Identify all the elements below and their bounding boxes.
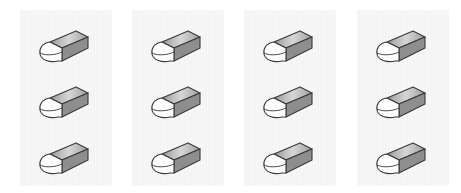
eraser-icon bbox=[148, 140, 208, 180]
eraser-icon bbox=[260, 84, 320, 124]
eraser-item bbox=[244, 20, 336, 76]
eraser-item bbox=[132, 20, 224, 76]
eraser-icon bbox=[148, 84, 208, 124]
panel-column-3 bbox=[244, 10, 336, 186]
eraser-icon bbox=[373, 84, 433, 124]
eraser-icon bbox=[36, 140, 96, 180]
eraser-item bbox=[20, 76, 112, 132]
eraser-icon bbox=[373, 28, 433, 68]
panel-column-2 bbox=[132, 10, 224, 186]
eraser-item bbox=[357, 132, 449, 188]
eraser-item bbox=[357, 76, 449, 132]
eraser-item bbox=[357, 20, 449, 76]
panel-column-4 bbox=[357, 10, 449, 186]
eraser-item bbox=[20, 132, 112, 188]
eraser-item bbox=[20, 20, 112, 76]
panel-column-1 bbox=[20, 10, 112, 186]
eraser-icon bbox=[260, 28, 320, 68]
eraser-item bbox=[244, 76, 336, 132]
eraser-item bbox=[132, 76, 224, 132]
eraser-item bbox=[132, 132, 224, 188]
eraser-item bbox=[244, 132, 336, 188]
eraser-icon bbox=[260, 140, 320, 180]
eraser-icon bbox=[36, 28, 96, 68]
eraser-icon bbox=[373, 140, 433, 180]
eraser-icon bbox=[36, 84, 96, 124]
eraser-icon bbox=[148, 28, 208, 68]
